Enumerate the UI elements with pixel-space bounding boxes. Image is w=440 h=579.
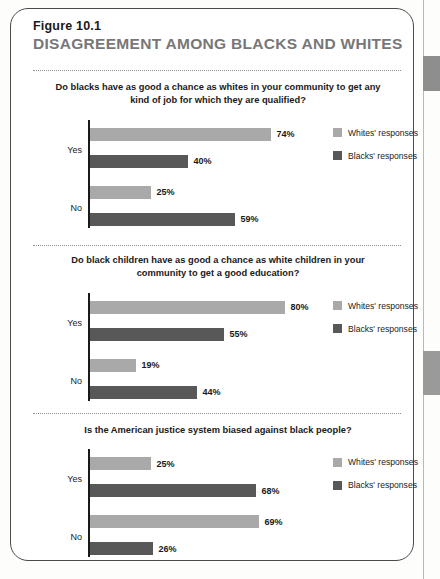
bar-value-no-blacks: 59% (241, 214, 259, 224)
legend-item-whites: Whites' responses (333, 301, 440, 311)
bar-value-yes-whites: 80% (291, 302, 309, 312)
legend-label-blacks: Blacks' responses (348, 324, 417, 334)
bar-value-yes-whites: 74% (277, 129, 295, 139)
figure-title: DISAGREEMENT AMONG BLACKS AND WHITES (33, 35, 399, 53)
bar-yes-blacks (90, 484, 256, 497)
section-divider (33, 245, 401, 246)
legend-item-whites: Whites' responses (333, 128, 440, 138)
figure-heading: Figure 10.1 DISAGREEMENT AMONG BLACKS AN… (33, 19, 399, 53)
bar-value-yes-blacks: 40% (194, 156, 212, 166)
bar-yes-whites (90, 457, 151, 470)
legend-swatch-icon-blacks (333, 151, 342, 160)
page-thumb-tab-lower (423, 351, 440, 395)
bar-value-no-whites: 19% (142, 360, 160, 370)
bar-no-whites (90, 515, 259, 528)
bar-no-blacks (90, 213, 235, 226)
category-label-no: No (33, 533, 82, 542)
legend-swatch-icon-whites (333, 301, 342, 310)
plot-area: Yes No 80% 55% 19% 44% (33, 293, 403, 401)
category-label-no: No (33, 377, 82, 386)
figure-number: Figure 10.1 (33, 19, 399, 33)
legend-label-whites: Whites' responses (348, 301, 418, 311)
legend-label-whites: Whites' responses (348, 457, 418, 467)
legend-item-whites: Whites' responses (333, 457, 440, 467)
bar-yes-blacks (90, 155, 188, 168)
page-root: Figure 10.1 DISAGREEMENT AMONG BLACKS AN… (0, 0, 440, 579)
page-thumb-tab-upper (423, 56, 440, 91)
chart-block-education: Do black children have as good a chance … (33, 254, 403, 401)
bar-value-no-whites: 25% (157, 187, 175, 197)
legend-swatch-icon-whites (333, 458, 342, 467)
chart-legend: Whites' responses Blacks' responses (333, 128, 440, 174)
bar-value-no-whites: 69% (265, 517, 283, 527)
bar-yes-whites (90, 128, 271, 141)
category-label-yes: Yes (33, 319, 82, 328)
plot-area: Yes No 25% 68% 69% 26% (33, 449, 403, 557)
legend-swatch-icon-whites (333, 128, 342, 137)
section-divider (33, 70, 401, 71)
legend-label-whites: Whites' responses (348, 128, 418, 138)
plot-area: Yes No 74% 40% 25% 59% (33, 120, 403, 228)
legend-item-blacks: Blacks' responses (333, 151, 440, 161)
legend-swatch-icon-blacks (333, 481, 342, 490)
bar-value-yes-blacks: 55% (230, 329, 248, 339)
bar-yes-blacks (90, 328, 224, 341)
chart-block-justice: Is the American justice system biased ag… (33, 424, 403, 557)
legend-item-blacks: Blacks' responses (333, 324, 440, 334)
legend-label-blacks: Blacks' responses (348, 480, 417, 490)
section-divider (33, 413, 401, 414)
figure-frame: Figure 10.1 DISAGREEMENT AMONG BLACKS AN… (10, 8, 414, 561)
bar-value-yes-whites: 25% (157, 459, 175, 469)
legend-item-blacks: Blacks' responses (333, 480, 440, 490)
category-label-no: No (33, 204, 82, 213)
bar-value-no-blacks: 44% (203, 387, 221, 397)
bar-value-yes-blacks: 68% (262, 486, 280, 496)
chart-question: Do blacks have as good a chance as white… (33, 81, 403, 108)
chart-question: Is the American justice system biased ag… (33, 424, 403, 437)
chart-legend: Whites' responses Blacks' responses (333, 457, 440, 503)
bar-yes-whites (90, 301, 285, 314)
bar-no-blacks (90, 542, 153, 555)
chart-question: Do black children have as good a chance … (33, 254, 403, 281)
bar-value-no-blacks: 26% (159, 544, 177, 554)
legend-swatch-icon-blacks (333, 324, 342, 333)
bar-no-whites (90, 359, 136, 372)
legend-label-blacks: Blacks' responses (348, 151, 417, 161)
category-label-yes: Yes (33, 146, 82, 155)
bar-no-blacks (90, 386, 197, 399)
chart-legend: Whites' responses Blacks' responses (333, 301, 440, 347)
category-label-yes: Yes (33, 475, 82, 484)
bar-no-whites (90, 186, 151, 199)
chart-block-jobs: Do blacks have as good a chance as white… (33, 81, 403, 228)
